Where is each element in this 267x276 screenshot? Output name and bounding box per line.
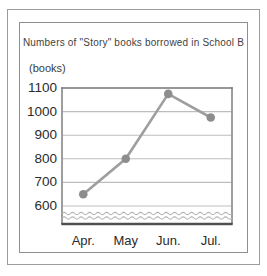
axis-break-wave	[62, 217, 232, 219]
page: Numbers of "Story" books borrowed in Sch…	[0, 0, 267, 276]
data-point	[206, 113, 215, 122]
axis-break-wave	[62, 212, 232, 214]
data-point	[121, 155, 130, 164]
line-series	[83, 94, 211, 194]
data-point	[79, 190, 88, 199]
chart-title: Numbers of "Story" books borrowed in Sch…	[19, 37, 248, 48]
line-chart-plot	[61, 87, 233, 227]
y-axis-unit-label: (books)	[29, 62, 66, 74]
data-point	[164, 90, 173, 99]
